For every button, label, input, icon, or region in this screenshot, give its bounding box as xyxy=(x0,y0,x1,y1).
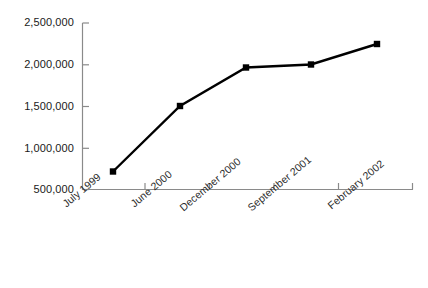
line-chart: 2,500,000 2,000,000 1,500,000 1,000,000 … xyxy=(0,0,428,288)
data-point-2 xyxy=(243,64,249,70)
data-point-3 xyxy=(308,61,314,67)
data-point-markers xyxy=(110,41,380,175)
data-point-4 xyxy=(374,41,380,47)
data-series-line xyxy=(113,44,377,172)
y-tick-label-500000: 500,000 xyxy=(8,183,74,195)
data-point-1 xyxy=(177,103,183,109)
data-point-0 xyxy=(110,168,116,174)
y-tick-label-2500000: 2,500,000 xyxy=(8,16,74,28)
y-tick-label-1500000: 1,500,000 xyxy=(8,100,74,112)
y-axis-ticks xyxy=(83,23,90,190)
y-tick-label-2000000: 2,000,000 xyxy=(8,58,74,70)
y-tick-label-1000000: 1,000,000 xyxy=(8,142,74,154)
